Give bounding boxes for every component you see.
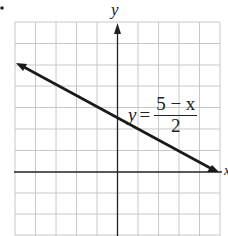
y-axis-arrow-icon xyxy=(114,23,121,34)
y-axis-label: y xyxy=(111,0,119,20)
equation-fraction: 5 − x 2 xyxy=(154,93,197,136)
equation-label: y = 5 − x 2 xyxy=(128,93,197,136)
equation-equals: = xyxy=(139,104,150,126)
equation-denominator: 2 xyxy=(171,116,181,136)
equation-lhs: y xyxy=(128,104,136,126)
bullet-icon xyxy=(0,6,4,10)
x-axis-label: x xyxy=(224,163,228,179)
equation-numerator: 5 − x xyxy=(154,93,197,115)
